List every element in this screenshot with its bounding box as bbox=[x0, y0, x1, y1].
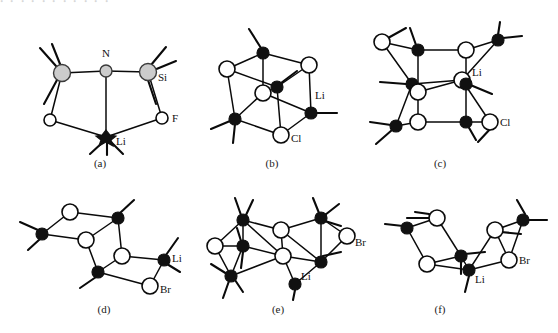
stub-c-l1-a bbox=[376, 130, 392, 144]
stub-b-topmid bbox=[249, 29, 261, 48]
atom-e-li-bt2 bbox=[315, 212, 327, 224]
atom-f-br-rt bbox=[487, 222, 503, 238]
atom-f-li-lc bbox=[455, 250, 467, 262]
caption-panel-f: (f) bbox=[420, 303, 460, 315]
stub-si-right-b bbox=[154, 61, 176, 70]
atom-f-li-bridge bbox=[463, 264, 475, 276]
atom-c-cl-l2 bbox=[410, 114, 426, 130]
atom-b-cl-botmid bbox=[273, 127, 289, 143]
atom-c-li-u4 bbox=[492, 34, 504, 46]
stub-d-mb-a bbox=[80, 277, 96, 288]
atom-si-right bbox=[140, 64, 157, 81]
atom-d-li-ul bbox=[36, 228, 48, 240]
atom-d-br-uc bbox=[78, 232, 94, 248]
stub-d-ul-b bbox=[28, 239, 40, 250]
stub-f-lt-b bbox=[415, 212, 429, 214]
label-li: Li bbox=[116, 135, 126, 147]
label-si: Si bbox=[158, 71, 167, 83]
panel-b-diagram: Li Cl bbox=[205, 25, 345, 155]
stub-e-fl-b bbox=[223, 281, 229, 298]
bond-f-to-li bbox=[106, 118, 162, 137]
stub-f-bridge-a bbox=[465, 276, 469, 292]
bond-o-left-to-li bbox=[50, 120, 106, 137]
atom-e-br-lm bbox=[275, 248, 291, 264]
caption-panel-d: (d) bbox=[84, 303, 124, 315]
atom-c-li-l3 bbox=[460, 116, 472, 128]
label-n: N bbox=[102, 47, 110, 59]
atom-c-cl-u1 bbox=[374, 34, 390, 50]
stub-e-bt1-b bbox=[246, 200, 253, 215]
stub-f-rr-a bbox=[517, 200, 525, 214]
atom-e-li-fb bbox=[289, 278, 301, 290]
atom-c-cl-u3 bbox=[458, 42, 474, 58]
stub-e-bt1-a bbox=[235, 198, 241, 215]
atom-d-br-ut bbox=[62, 204, 78, 220]
figure-root: ꞏ ꞏ ꞏ ꞏ ꞏ ꞏ ꞏ ꞏ ꞏ ꞏ ꞏ N Si F Li bbox=[0, 0, 558, 333]
panel-e-diagram: Li Br bbox=[195, 196, 380, 301]
stub-e-br-a bbox=[323, 252, 341, 256]
stub-c-l3 bbox=[468, 126, 476, 140]
label-b-cl: Cl bbox=[291, 132, 301, 144]
panel-a-diagram: N Si F Li bbox=[20, 30, 205, 155]
stub-e-fb-a bbox=[293, 290, 295, 300]
atom-e-li-lr bbox=[315, 256, 327, 268]
label-f: F bbox=[172, 112, 178, 124]
stub-d-lr-b bbox=[167, 264, 180, 272]
stub-c-u4-b bbox=[498, 22, 500, 35]
label-f-br: Br bbox=[519, 254, 530, 266]
label-b-li: Li bbox=[315, 89, 325, 101]
stub-c-m1 bbox=[380, 82, 406, 84]
atom-e-li-bt1 bbox=[237, 214, 249, 226]
atom-n bbox=[100, 65, 112, 77]
stub-e-bt2-a bbox=[313, 198, 319, 213]
stub-c-u2 bbox=[410, 28, 416, 45]
stub-si-left-b bbox=[52, 44, 60, 64]
stub-b-botleft-b bbox=[233, 124, 235, 143]
atom-d-li-mb bbox=[92, 266, 104, 278]
atom-f-br-rc bbox=[501, 252, 517, 268]
atom-f-br-lb bbox=[419, 256, 435, 272]
atom-b-cl-topright bbox=[301, 57, 317, 73]
label-d-li: Li bbox=[172, 252, 182, 264]
top-cut-text: ꞏ ꞏ ꞏ ꞏ ꞏ ꞏ ꞏ ꞏ ꞏ ꞏ ꞏ bbox=[0, 0, 300, 5]
atom-c-cl-l4 bbox=[482, 114, 498, 130]
atom-e-br-right bbox=[339, 228, 355, 244]
stub-c-u1 bbox=[388, 28, 406, 38]
atom-b-cl-topleft bbox=[219, 61, 235, 77]
atom-b-li-botright bbox=[305, 107, 317, 119]
atom-b-li-topmid bbox=[257, 47, 269, 59]
label-c-cl: Cl bbox=[500, 116, 510, 128]
panel-f-diagram: Br Li bbox=[385, 198, 550, 303]
stub-e-bt2-c bbox=[325, 221, 341, 226]
caption-panel-a: (a) bbox=[80, 157, 120, 169]
caption-panel-e: (e) bbox=[258, 303, 298, 315]
atom-f bbox=[156, 112, 168, 124]
caption-panel-c: (c) bbox=[420, 157, 460, 169]
atom-f-li-rr bbox=[517, 214, 529, 226]
stub-c-l1-b bbox=[370, 122, 391, 125]
atom-d-br-lb bbox=[142, 278, 158, 294]
label-e-br: Br bbox=[355, 236, 366, 248]
stub-b-center bbox=[281, 71, 297, 83]
label-f-li: Li bbox=[475, 273, 485, 285]
atom-c-li-right bbox=[460, 78, 472, 90]
stub-c-u4-a bbox=[503, 36, 522, 38]
stub-e-ic1-a bbox=[237, 228, 241, 241]
atom-f-li-ll bbox=[401, 222, 413, 234]
atom-c-cl-innermid bbox=[410, 84, 426, 100]
atom-d-li-lr bbox=[158, 254, 170, 266]
panel-c-diagram: Li Cl bbox=[350, 22, 535, 157]
stub-e-fl-c bbox=[235, 280, 243, 292]
stub-b-botleft-a bbox=[211, 121, 230, 129]
atom-e-li-fl bbox=[225, 270, 237, 282]
stub-si-right-a bbox=[151, 47, 166, 65]
atom-si-left bbox=[54, 65, 71, 82]
atom-b-li-center bbox=[271, 81, 283, 93]
atom-f-br-lt bbox=[429, 210, 445, 226]
caption-panel-b: (b) bbox=[252, 157, 292, 169]
stub-e-bt2-b bbox=[325, 204, 339, 215]
panel-d-diagram: Li Br bbox=[18, 196, 193, 301]
label-c-li: Li bbox=[472, 66, 482, 78]
stub-e-ic1-b bbox=[241, 252, 243, 268]
stub-f-ll-a bbox=[385, 224, 403, 226]
